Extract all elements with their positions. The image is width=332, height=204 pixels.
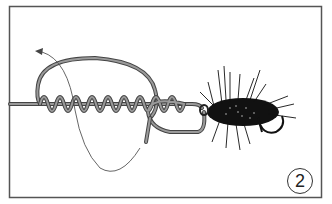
arrow-head-icon xyxy=(35,48,43,55)
direction-arrow xyxy=(42,52,140,171)
fishing-line xyxy=(10,58,204,142)
fly-lure xyxy=(200,66,296,150)
knot-illustration xyxy=(0,0,332,204)
knot-diagram: 2 xyxy=(0,0,332,204)
step-number-badge: 2 xyxy=(287,168,313,194)
